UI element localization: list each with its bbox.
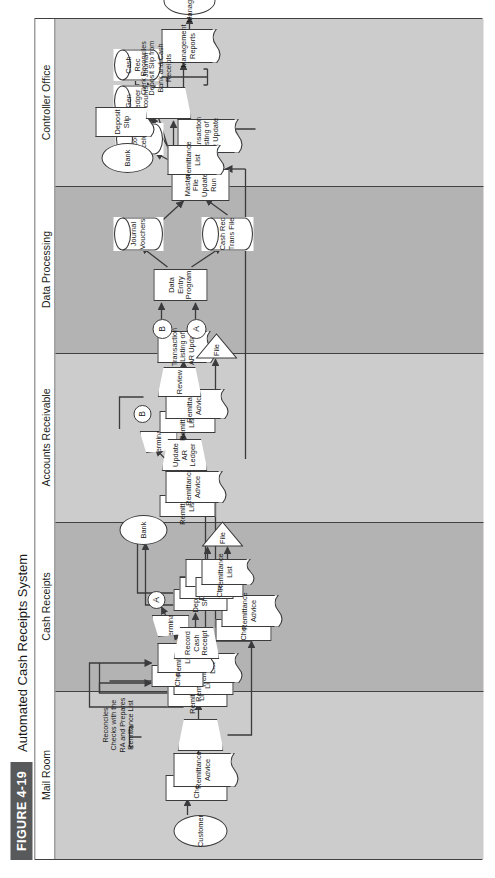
swimlanes: Customer Check Remittance Advice Reconci… — [55, 19, 483, 859]
dp-journal-vouchers-db[interactable]: Journal Vouchers — [113, 217, 163, 251]
flowchart-frame: Mail Room Cash Receipts Accounts Receiva… — [34, 18, 482, 860]
figure-titlebar: FIGURE 4-19 Automated Cash Receipts Syst… — [10, 544, 32, 860]
figure-tag: FIGURE 4-19 — [10, 762, 32, 860]
ar-update-ar-ledger[interactable]: Update AR Ledger — [161, 439, 207, 471]
lane-header-data-processing: Data Processing — [35, 186, 55, 353]
cash-receipts-connector-a[interactable]: A — [147, 591, 165, 609]
lane-header-accounts-receivable: Accounts Receivable — [35, 353, 55, 522]
cash-receipts-bank[interactable]: Bank — [119, 515, 167, 545]
co-remittance-list[interactable]: Remittance List — [167, 145, 217, 175]
co-remittance-list-label: Remittance List — [168, 146, 217, 174]
dp-connector-b-label: B — [153, 320, 171, 338]
co-annotation: Clerk Reconciles Deposit Slip from Bank … — [139, 37, 173, 99]
cash-receipts-remittance-list-out[interactable]: Remittance List — [201, 559, 247, 585]
ar-review-process-label: Review — [158, 368, 200, 396]
dp-management[interactable]: Management — [163, 0, 215, 15]
mail-room-remittance-advice-1-label: Remittance Advice — [174, 754, 231, 786]
mail-room-remittance-advice-2-label: Remittance Advice — [222, 596, 275, 626]
co-deposit-slip-label: Deposit Slip — [96, 108, 147, 136]
ar-remittance-advice-in-label: Remittance Advice — [166, 472, 219, 502]
dp-connector-a-label: A — [187, 320, 205, 338]
co-deposit-slip[interactable]: Deposit Slip — [95, 107, 147, 137]
dp-data-entry-program[interactable]: Data Entry Program — [153, 269, 207, 301]
cash-receipts-record-cash-receipt-label: Record Cash Receipt — [174, 628, 218, 658]
mail-room-customer[interactable]: Customer — [173, 815, 227, 847]
dp-cash-rec-trans-file-db[interactable]: Cash Rec Trans File — [201, 217, 253, 251]
ar-update-ar-ledger-label: Update AR Ledger — [162, 440, 206, 470]
mail-room-remittance-advice-1[interactable]: Remittance Advice — [173, 753, 231, 787]
cash-receipts-bank-label: Bank — [120, 516, 166, 544]
dp-connector-a[interactable]: A — [186, 319, 206, 339]
lane-header-mail-room: Mail Room — [35, 691, 55, 859]
mail-room-customer-label: Customer — [174, 816, 226, 846]
figure-title: Automated Cash Receipts System — [10, 544, 32, 762]
lane-header-cash-receipts: Cash Receipts — [35, 522, 55, 691]
ar-remittance-advice-in[interactable]: Remittance Advice — [165, 471, 219, 503]
cash-receipts-file[interactable]: File — [201, 521, 243, 547]
co-bank-label: Bank — [102, 144, 152, 172]
cash-receipts-connector-a-label: A — [148, 592, 164, 608]
mail-room-reconcile-process[interactable] — [177, 719, 223, 751]
cash-receipts-record-cash-receipt[interactable]: Record Cash Receipt — [173, 627, 219, 659]
dp-management-label: Management — [164, 0, 214, 14]
dp-data-entry-program-label: Data Entry Program — [154, 270, 206, 300]
ar-connector-b[interactable]: B — [133, 405, 151, 423]
ar-connector-b-label: B — [134, 406, 150, 422]
mail-room-remittance-advice-2[interactable]: Remittance Advice — [221, 595, 275, 627]
lane-header-controller-office: Controller Office — [35, 19, 55, 186]
cash-receipts-remittance-list-out-label: Remittance List — [202, 560, 247, 584]
figure-canvas: FIGURE 4-19 Automated Cash Receipts Syst… — [0, 0, 495, 878]
lane-header-row: Mail Room Cash Receipts Accounts Receiva… — [35, 19, 55, 859]
dp-connector-b[interactable]: B — [152, 319, 172, 339]
mail-room-annotation: Reconciles Checks with the RA and Prepar… — [101, 695, 135, 755]
co-bank[interactable]: Bank — [101, 143, 153, 173]
lane-accounts-receivable — [55, 353, 483, 522]
ar-review-process[interactable]: Review — [157, 367, 201, 397]
lane-data-processing — [55, 186, 483, 353]
